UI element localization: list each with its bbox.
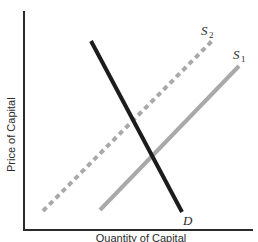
chart-canvas: Price of Capital S 2 S 1 D <box>0 0 258 242</box>
supply-demand-chart: Price of Capital S 2 S 1 D Quantity of C… <box>0 0 258 242</box>
label-supply-s2-subscript: 2 <box>209 30 214 40</box>
supply-curve-s2 <box>43 41 212 211</box>
y-axis-title: Price of Capital <box>5 97 17 172</box>
demand-curve-d <box>91 41 182 212</box>
label-demand-d: D <box>182 213 193 228</box>
label-supply-s1: S <box>233 47 240 62</box>
label-supply-s1-subscript: 1 <box>241 54 246 64</box>
x-axis-title: Quantity of Capital <box>24 233 258 242</box>
label-supply-s2: S <box>201 23 208 38</box>
